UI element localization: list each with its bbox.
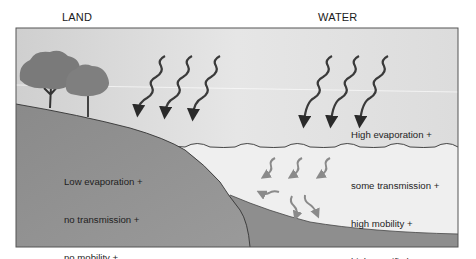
- land-caption: Low evaporation + no transmission + no m…: [64, 151, 166, 259]
- land-caption-line: no mobility +: [64, 252, 166, 259]
- land-heading: LAND: [62, 11, 92, 23]
- land-caption-line: no transmission +: [64, 214, 166, 227]
- water-heading: WATER: [318, 11, 358, 23]
- water-caption-line: some transmission +: [351, 180, 445, 193]
- water-caption: some transmission + high mobility + high…: [351, 155, 445, 259]
- water-caption-line: high mobility +: [351, 218, 445, 231]
- water-evaporation-label: High evaporation +: [351, 129, 432, 142]
- land-caption-line: Low evaporation +: [64, 176, 166, 189]
